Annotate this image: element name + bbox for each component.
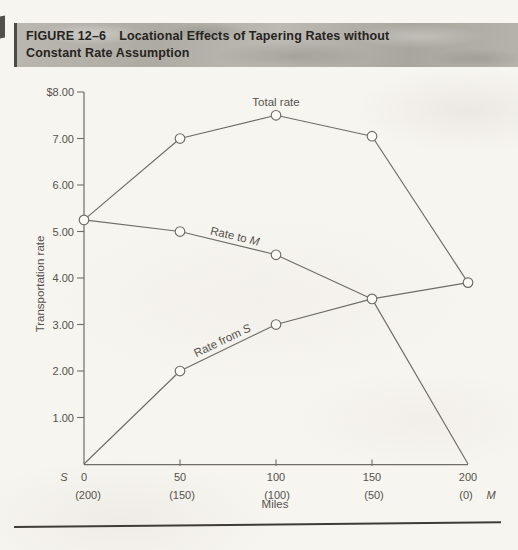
x-tick-label: 200 — [459, 471, 477, 483]
data-point-marker — [463, 278, 473, 288]
y-tick-label: 6.00 — [53, 179, 74, 191]
data-point-marker — [175, 134, 185, 144]
data-point-marker — [271, 320, 281, 330]
data-point-marker — [175, 227, 185, 237]
x-secondary-label: (150) — [169, 489, 195, 501]
x-tick-label: 50 — [174, 471, 186, 483]
y-tick-label: 4.00 — [53, 272, 74, 284]
data-point-marker — [79, 215, 89, 225]
y-tick-label: $8.00 — [46, 86, 74, 98]
x-secondary-label: (50) — [364, 489, 384, 501]
origin-station-label: S — [60, 471, 68, 483]
series-line-rate-from-s — [84, 283, 468, 464]
series-label-total-rate: Total rate — [252, 96, 299, 108]
textbook-figure-page: FIGURE 12–6Locational Effects of Taperin… — [0, 0, 518, 550]
x-axis-title: Miles — [262, 498, 289, 510]
y-tick-label: 3.00 — [53, 319, 74, 331]
transportation-rate-chart: $8.007.006.005.004.003.002.001.000(200)5… — [0, 0, 518, 550]
y-tick-label: 7.00 — [53, 133, 74, 145]
y-axis-title: Transportation rate — [34, 236, 46, 333]
terminal-station-label: M — [486, 489, 496, 501]
data-point-marker — [271, 111, 281, 121]
x-tick-label: 100 — [267, 471, 285, 483]
x-secondary-label: (200) — [75, 489, 101, 501]
data-point-marker — [271, 250, 281, 260]
y-tick-label: 1.00 — [53, 412, 74, 424]
data-point-marker — [367, 294, 377, 304]
data-point-marker — [175, 366, 185, 376]
x-secondary-label: (0) — [459, 489, 472, 501]
data-point-marker — [367, 131, 377, 141]
x-tick-label: 150 — [363, 471, 381, 483]
y-tick-label: 2.00 — [53, 365, 74, 377]
y-tick-label: 5.00 — [53, 226, 74, 238]
x-tick-label: 0 — [81, 471, 87, 483]
